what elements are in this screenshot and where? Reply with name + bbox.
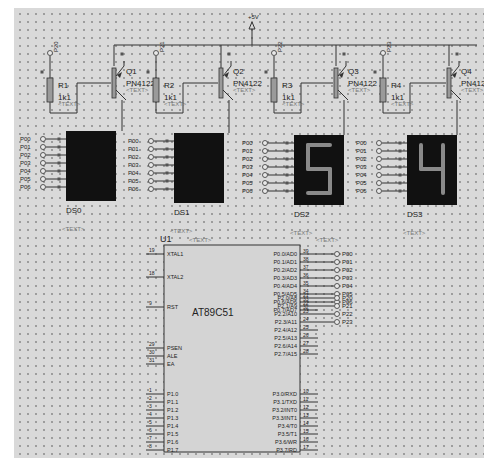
port0-terminal-label: P02	[342, 267, 353, 273]
port0-terminal-label: P01	[342, 259, 353, 265]
pin-name: P2.4/A12	[274, 327, 297, 333]
pin-name: P1.5	[167, 431, 178, 437]
terminal-icon[interactable]	[41, 145, 46, 150]
driver-stage-2[interactable]: P22R31k1<TEXT>Q3PN4122<TEXT>	[265, 41, 378, 113]
transistor-ref: Q2	[233, 67, 244, 76]
terminal-icon[interactable]	[263, 173, 268, 178]
terminal-icon[interactable]	[381, 51, 386, 56]
display-body	[174, 133, 224, 203]
terminal-icon[interactable]	[41, 177, 46, 182]
terminal-icon[interactable]	[335, 304, 340, 309]
display-ref: DS2	[294, 210, 310, 219]
pin-number: 5	[149, 419, 152, 425]
schematic-canvas[interactable]: +5VP20R11k1<TEXT>Q1PN4122<TEXT>P21R21k1<…	[14, 8, 484, 458]
terminal-icon[interactable]	[377, 189, 382, 194]
pin-number: 1	[149, 387, 152, 393]
terminal-icon[interactable]	[149, 187, 154, 192]
mcu-at89c51[interactable]: U1<TEXT>AT89C5119XTAL118XTAL29RST29PSEN3…	[146, 234, 353, 453]
seven-segment-display-2[interactable]: P00P01P02P03P04P05P06DS2<TEXT>	[242, 100, 344, 236]
pin-name: P0.4/AD4	[273, 283, 297, 289]
pin-name: P2.5/A13	[274, 335, 297, 341]
terminal-icon[interactable]	[377, 165, 382, 170]
pin-number: 26	[303, 332, 309, 338]
driver-stage-3[interactable]: P23R41k1<TEXT>Q4PN4122<TEXT>	[374, 41, 485, 113]
terminal-icon[interactable]	[263, 181, 268, 186]
terminal-icon[interactable]	[335, 276, 340, 281]
schematic-sheet[interactable]: +5VP20R11k1<TEXT>Q1PN4122<TEXT>P21R21k1<…	[14, 8, 484, 458]
terminal-icon[interactable]	[335, 320, 340, 325]
terminal-icon[interactable]	[335, 268, 340, 273]
terminal-icon[interactable]	[41, 161, 46, 166]
transistor-ref: Q3	[348, 67, 359, 76]
resistor-icon[interactable]	[380, 78, 386, 102]
terminal-icon[interactable]	[41, 169, 46, 174]
seven-segment-display-1[interactable]: P00P01P02P03P04P05P06DS1<TEXT>	[128, 100, 229, 234]
resistor-icon[interactable]	[47, 78, 53, 102]
terminal-icon[interactable]	[377, 149, 382, 154]
terminal-icon[interactable]	[154, 51, 159, 56]
pin-name: P3.5/T1	[278, 431, 297, 437]
transistor-icon[interactable]	[334, 68, 338, 98]
terminal-icon[interactable]	[377, 181, 382, 186]
terminal-icon[interactable]	[149, 171, 154, 176]
terminal-icon[interactable]	[335, 284, 340, 289]
port0-terminal-label: P04	[342, 283, 353, 289]
resistor-icon[interactable]	[271, 78, 277, 102]
segment-terminal-label: P01	[20, 144, 31, 150]
pin-name: P3.1/TXD	[273, 399, 297, 405]
terminal-icon[interactable]	[48, 51, 53, 56]
pin-number: 38	[303, 256, 309, 262]
pin-number: 37	[303, 264, 309, 270]
pin-number: 30	[149, 349, 155, 355]
terminal-icon[interactable]	[263, 165, 268, 170]
terminal-icon[interactable]	[149, 147, 154, 152]
terminal-icon[interactable]	[149, 155, 154, 160]
terminal-icon[interactable]	[377, 173, 382, 178]
seven-segment-display-0[interactable]: P00P01P02P03P04P05P06DS0<TEXT>	[20, 100, 122, 232]
terminal-icon[interactable]	[335, 312, 340, 317]
transistor-ref: Q1	[126, 67, 137, 76]
terminal-icon[interactable]	[272, 51, 277, 56]
port0-terminal-label: P00	[342, 251, 353, 257]
power-supply-5v[interactable]: +5V	[248, 14, 259, 45]
terminal-icon[interactable]	[263, 149, 268, 154]
port2-terminal-label: P22	[342, 311, 353, 317]
pin-name: P2.7/A15	[274, 351, 297, 357]
terminal-icon[interactable]	[41, 185, 46, 190]
terminal-icon[interactable]	[263, 189, 268, 194]
terminal-icon[interactable]	[41, 137, 46, 142]
pin-name: P2.6/A14	[274, 343, 297, 349]
terminal-icon[interactable]	[335, 260, 340, 265]
terminal-icon[interactable]	[149, 163, 154, 168]
terminal-icon[interactable]	[335, 252, 340, 257]
pin-number: 8	[149, 443, 152, 449]
terminal-icon[interactable]	[263, 157, 268, 162]
display-ref: DS0	[66, 206, 82, 215]
terminal-icon[interactable]	[263, 141, 268, 146]
terminal-icon[interactable]	[335, 296, 340, 301]
segment-terminal-label: P03	[242, 164, 253, 170]
terminal-icon[interactable]	[377, 157, 382, 162]
pin-number: 3	[149, 403, 152, 409]
pin-name: RST	[167, 304, 179, 310]
base-terminal-label: P22	[277, 41, 283, 52]
seven-segment-display-3[interactable]: P00P01P02P03P04P05P06DS3<TEXT>	[356, 100, 457, 236]
terminal-icon[interactable]	[149, 139, 154, 144]
pin-number: 35	[303, 280, 309, 286]
pin-name: P0.1/AD1	[273, 259, 297, 265]
pin-number: 23	[303, 308, 309, 314]
resistor-icon[interactable]	[153, 78, 159, 102]
terminal-icon[interactable]	[149, 179, 154, 184]
pin-number: 11	[303, 396, 308, 402]
pin-name: P1.0	[167, 391, 178, 397]
pin-name: P3.7/RD	[276, 447, 297, 453]
transistor-icon[interactable]	[219, 68, 223, 98]
transistor-icon[interactable]	[112, 68, 116, 98]
display-text: <TEXT>	[170, 228, 193, 234]
terminal-icon[interactable]	[41, 153, 46, 158]
driver-stage-0[interactable]: P20R11k1<TEXT>Q1PN4122<TEXT>	[41, 41, 156, 113]
driver-stage-1[interactable]: P21R21k1<TEXT>Q2PN4122<TEXT>	[147, 41, 263, 113]
transistor-icon[interactable]	[447, 68, 451, 98]
pin-number: 19	[149, 247, 155, 253]
terminal-icon[interactable]	[377, 141, 382, 146]
